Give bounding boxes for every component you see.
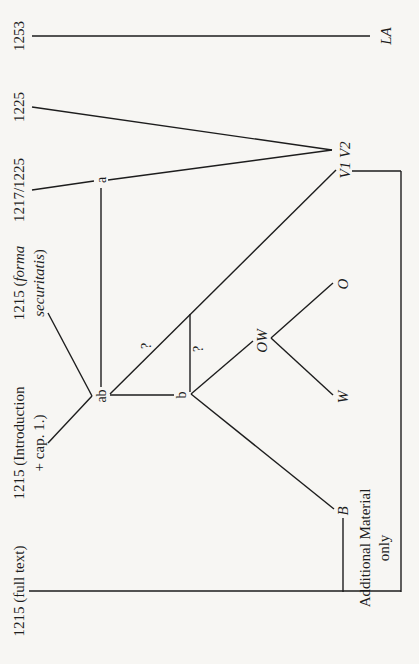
label-1217-1225: 1217/1225	[11, 158, 27, 222]
line-1225-V2	[32, 107, 332, 150]
node-OW: OW	[254, 328, 270, 353]
label-forma-securitatis-1: 1215 (forma	[11, 246, 28, 321]
label-introduction-2: + cap. 1.)	[31, 415, 48, 472]
node-V1-V2: V1 V2	[337, 141, 353, 179]
label-1253: 1253	[11, 21, 27, 51]
label-forma-securitatis-2: securitatis)	[31, 249, 48, 317]
node-b: b	[174, 392, 189, 399]
node-LA: LA	[378, 26, 394, 45]
label-1225: 1225	[11, 92, 27, 122]
line-1217-a	[32, 181, 94, 190]
line-OW-W	[271, 338, 333, 395]
note-additional-material-2: only	[376, 534, 392, 561]
node-a: a	[94, 176, 109, 183]
line-intro-ab	[48, 396, 92, 443]
query-mark-2: ?	[191, 346, 206, 352]
note-additional-material-1: Additional Material	[357, 489, 373, 608]
label-introduction-1: 1215 (Introduction	[11, 386, 28, 499]
line-OW-O	[271, 283, 333, 338]
label-full-text: 1215 (full text)	[11, 546, 28, 637]
line-ab-V1	[110, 170, 336, 394]
line-a-V	[108, 150, 332, 180]
line-b-B	[191, 394, 334, 509]
node-B: B	[335, 506, 351, 515]
query-mark-1: ?	[139, 343, 154, 349]
node-O: O	[335, 278, 351, 289]
node-W: W	[335, 389, 351, 403]
stemma-diagram: 1253 1225 1217/1225 1215 (forma securita…	[0, 0, 419, 664]
node-ab: ab	[94, 389, 109, 402]
line-forma-ab	[48, 313, 92, 396]
